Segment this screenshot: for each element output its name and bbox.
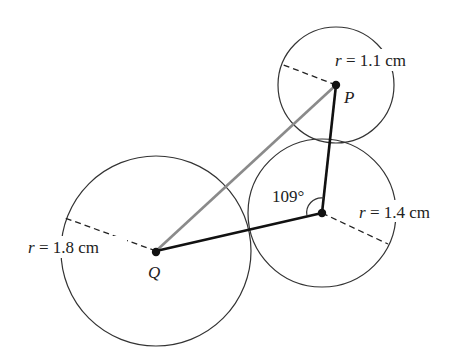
radius-small-dashed [281,64,336,85]
point-p [332,81,340,89]
point-label-q: Q [148,263,160,282]
point-center-middle [318,209,326,217]
angle-label: 109° [272,187,304,206]
segment-center-p [322,85,336,213]
point-label-p: P [343,88,354,107]
three-circles-diagram: r = 1.1 cm P r = 1.4 cm 109° r = 1.8 cm … [0,0,476,364]
point-q [152,248,160,256]
segment-q-center [156,213,322,251]
radius-label-middle: r = 1.4 cm [359,203,430,222]
radius-label-small: r = 1.1 cm [335,51,406,70]
radius-label-large: r = 1.8 cm [28,238,99,257]
segment-pq [156,85,336,251]
